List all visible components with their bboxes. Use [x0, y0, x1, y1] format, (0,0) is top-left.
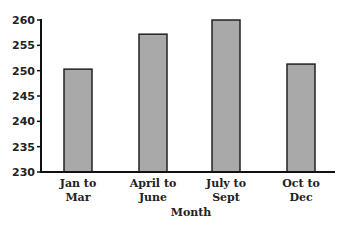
- x-tick-label: Jan to: [59, 177, 97, 190]
- y-tick-label: 255: [12, 39, 35, 52]
- x-tick-label: July to: [205, 177, 246, 190]
- x-tick-label: Mar: [65, 191, 90, 204]
- y-axis-ticks: 230235240245250255260: [12, 14, 41, 179]
- bar: [64, 69, 92, 172]
- bar-chart: 230235240245250255260 Jan toMarApril toJ…: [0, 0, 353, 225]
- y-tick-label: 240: [12, 115, 35, 128]
- bar: [139, 34, 167, 172]
- x-tick-label: Oct to: [282, 177, 320, 190]
- bar: [212, 20, 240, 172]
- x-tick-label: Dec: [289, 191, 313, 204]
- x-axis-labels: Jan toMarApril toJuneJuly toSeptOct toDe…: [59, 177, 320, 204]
- bar: [287, 64, 315, 172]
- y-tick-label: 230: [12, 166, 35, 179]
- x-tick-label: June: [138, 191, 167, 204]
- x-tick-label: Sept: [212, 191, 241, 204]
- x-tick-label: April to: [129, 177, 177, 190]
- y-tick-label: 245: [12, 90, 35, 103]
- y-tick-label: 260: [12, 14, 35, 27]
- bars: [64, 20, 315, 172]
- x-axis-title: Month: [171, 206, 212, 219]
- y-tick-label: 235: [12, 141, 35, 154]
- y-tick-label: 250: [12, 65, 35, 78]
